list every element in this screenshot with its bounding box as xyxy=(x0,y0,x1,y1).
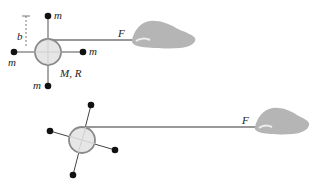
mass-4 xyxy=(70,172,77,179)
mass-3 xyxy=(112,147,119,154)
hand-icon xyxy=(255,108,309,135)
label-mass-bottom: m xyxy=(33,79,41,91)
mass-1 xyxy=(88,102,95,109)
mass-left xyxy=(11,49,18,56)
label-force-bottom: F xyxy=(241,114,249,126)
diagram-canvas: m m m m M, R b F F xyxy=(0,0,309,187)
mass-bottom xyxy=(45,83,52,90)
hand-icon xyxy=(132,21,195,49)
mass-right xyxy=(80,49,87,56)
label-distance-b: b xyxy=(17,30,23,42)
label-force-top: F xyxy=(117,27,125,39)
mass-top xyxy=(45,13,52,20)
label-mass-left: m xyxy=(8,56,16,68)
label-disk: M, R xyxy=(59,67,82,79)
bottom-diagram: F xyxy=(47,102,309,179)
label-mass-top: m xyxy=(54,9,62,21)
top-diagram: m m m m M, R b F xyxy=(8,9,195,91)
label-mass-right: m xyxy=(89,45,97,57)
mass-2 xyxy=(47,128,54,135)
